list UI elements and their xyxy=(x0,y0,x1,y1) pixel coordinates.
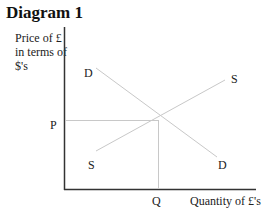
supply-demand-plot xyxy=(0,0,269,216)
x-axis-label: Quantity of £'s xyxy=(190,194,261,209)
price-label: P xyxy=(50,118,57,133)
demand-label-bottom: D xyxy=(218,158,227,173)
supply-label-top: S xyxy=(231,72,238,87)
demand-curve xyxy=(96,68,217,157)
demand-label-top: D xyxy=(84,66,93,81)
supply-label-bottom: S xyxy=(88,158,95,173)
quantity-label: Q xyxy=(152,194,161,209)
supply-curve xyxy=(96,80,225,151)
